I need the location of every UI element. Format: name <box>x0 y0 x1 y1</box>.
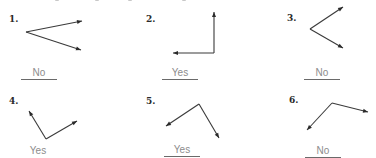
answer-1: No <box>21 67 57 80</box>
answer-3: No <box>304 67 340 80</box>
ray <box>199 104 219 138</box>
ray <box>166 104 199 126</box>
ray <box>310 7 343 29</box>
answer-6: No <box>305 145 341 158</box>
ray <box>307 103 332 130</box>
arrowhead-icon <box>29 111 33 116</box>
angle-figure-5 <box>166 104 219 138</box>
ray <box>310 29 343 48</box>
angle-figure-6 <box>307 103 368 130</box>
arrowhead-icon <box>338 44 343 48</box>
arrowhead-icon <box>77 20 82 24</box>
arrowhead-icon <box>215 133 219 138</box>
arrowhead-icon <box>166 122 171 126</box>
arrowhead-icon <box>338 7 343 11</box>
arrowhead-icon <box>76 47 81 51</box>
arrowhead-icon <box>72 121 77 125</box>
ray <box>332 103 368 112</box>
arrowhead-icon <box>212 12 216 17</box>
angle-figure-3 <box>310 7 343 48</box>
ray <box>46 121 77 139</box>
ray <box>26 32 81 50</box>
angle-figure-2 <box>173 12 214 53</box>
answer-2: Yes <box>162 67 198 80</box>
answer-4: Yes <box>20 145 56 157</box>
angle-figure-4 <box>29 111 77 139</box>
answer-5: Yes <box>164 144 200 157</box>
angle-figure-1 <box>26 21 82 50</box>
ray <box>26 21 82 32</box>
arrowhead-icon <box>173 51 178 55</box>
